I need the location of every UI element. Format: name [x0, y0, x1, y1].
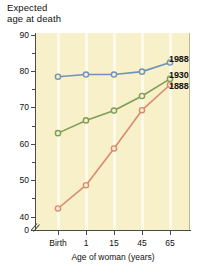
chart-container: Expectedage at death Birth11545650405060…: [0, 0, 199, 278]
data-point-1988-1: [83, 72, 88, 77]
data-point-1888-Birth: [55, 206, 60, 211]
legend-item-1888: 1888: [169, 81, 189, 91]
x-axis-title: Age of woman (years): [35, 252, 191, 262]
data-point-1888-1: [83, 183, 88, 188]
data-point-1930-15: [111, 108, 116, 113]
series-layer: [0, 0, 199, 278]
data-point-1930-45: [139, 93, 144, 98]
data-point-1888-45: [139, 108, 144, 113]
data-point-1930-1: [83, 118, 88, 123]
data-point-1988-15: [111, 72, 116, 77]
legend-item-1988: 1988: [169, 54, 189, 64]
data-point-1988-45: [139, 69, 144, 74]
data-point-1888-15: [111, 146, 116, 151]
legend-item-1930: 1930: [169, 70, 189, 80]
data-point-1930-Birth: [55, 131, 60, 136]
series-line-1930: [58, 79, 170, 133]
data-point-1988-Birth: [55, 74, 60, 79]
